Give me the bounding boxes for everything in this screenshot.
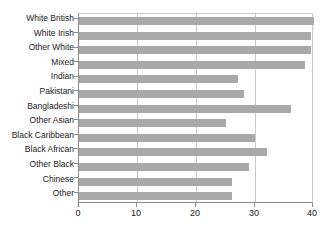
xaxis-tick-label-0: 0 [63, 208, 93, 219]
xaxis-tick [312, 203, 313, 207]
bar-other-asian [79, 119, 226, 127]
bar-row [79, 90, 244, 98]
xaxis-tick [136, 203, 137, 207]
category-label-other-white: Other White [0, 43, 74, 52]
bar-row [79, 119, 226, 127]
bar-other [79, 192, 232, 200]
xaxis-tick-label-10: 10 [121, 208, 151, 219]
xaxis-tick-label-30: 30 [239, 208, 269, 219]
bar-black-african [79, 148, 267, 156]
xaxis-tick [195, 203, 196, 207]
bar-pakistani [79, 90, 244, 98]
category-axis-labels: White British White Irish Other White Mi… [0, 13, 74, 203]
category-label-white-irish: White Irish [0, 29, 74, 38]
bar-chart: White British White Irish Other White Mi… [0, 0, 328, 239]
bar-row [79, 17, 314, 25]
bar-row [79, 163, 249, 171]
xaxis-tick-label-40: 40 [297, 208, 327, 219]
bar-row [79, 105, 291, 113]
bar-other-white [79, 46, 311, 54]
bar-row [79, 134, 255, 142]
xaxis-tick [254, 203, 255, 207]
bar-row [79, 178, 232, 186]
bar-row [79, 46, 311, 54]
bar-row [79, 148, 267, 156]
category-label-other-asian: Other Asian [0, 116, 74, 125]
bar-black-caribbean [79, 134, 255, 142]
bar-row [79, 192, 232, 200]
category-label-white-british: White British [0, 14, 74, 23]
bar-row [79, 61, 305, 69]
category-label-black-african: Black African [0, 145, 74, 154]
bar-bangladeshi [79, 105, 291, 113]
category-label-indian: Indian [0, 72, 74, 81]
category-label-other-black: Other Black [0, 160, 74, 169]
category-label-black-caribbean: Black Caribbean [0, 131, 74, 140]
category-label-other: Other [0, 189, 74, 198]
category-label-chinese: Chinese [0, 175, 74, 184]
bar-other-black [79, 163, 249, 171]
bar-white-irish [79, 32, 311, 40]
category-label-mixed: Mixed [0, 58, 74, 67]
bar-mixed [79, 61, 305, 69]
plot-area [78, 13, 313, 203]
bar-chinese [79, 178, 232, 186]
bar-row [79, 75, 238, 83]
bar-row [79, 32, 311, 40]
bar-indian [79, 75, 238, 83]
xaxis-tick-label-20: 20 [180, 208, 210, 219]
category-label-bangladeshi: Bangladeshi [0, 102, 74, 111]
category-label-pakistani: Pakistani [0, 87, 74, 96]
bar-white-british [79, 17, 314, 25]
xaxis-tick [78, 203, 79, 207]
